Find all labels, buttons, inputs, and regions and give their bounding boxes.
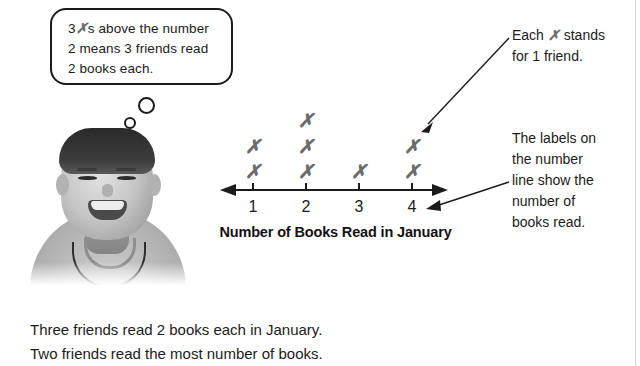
thought-bubble: 3✗s above the number 2 means 3 friends r… xyxy=(50,8,233,85)
x-mark-icon: ✗ xyxy=(298,111,314,130)
photo-eye-right xyxy=(117,176,136,180)
callout-number-line-labels: The labels on the number line show the n… xyxy=(512,128,634,233)
axis-arrowhead-right xyxy=(432,184,448,196)
lesson-page: 3✗s above the number 2 means 3 friends r… xyxy=(0,0,640,366)
callout-each-x: Each ✗ stands for 1 friend. xyxy=(512,25,634,67)
tick-label-3: 3 xyxy=(355,199,364,215)
thought-bubble-body: s above the number 2 means 3 friends rea… xyxy=(68,21,209,76)
x-mark-icon: ✗ xyxy=(404,162,420,181)
photo-teeth xyxy=(91,201,124,210)
x-mark-icon: ✗ xyxy=(548,27,560,43)
callout-arrow-top xyxy=(421,38,509,133)
callout-arrow-bottom xyxy=(426,182,509,211)
photo-hair xyxy=(59,128,155,174)
thought-bubble-text: 3✗s above the number 2 means 3 friends r… xyxy=(68,18,228,79)
x-mark-icon: ✗ xyxy=(351,162,367,181)
x-mark-icon: ✗ xyxy=(404,137,420,156)
summary-sentences: Three friends read 2 books each in Janua… xyxy=(30,318,530,366)
x-mark-icon: ✗ xyxy=(298,137,314,156)
photo-ear-right xyxy=(148,174,161,196)
x-mark-icon: ✗ xyxy=(245,137,261,156)
photo-ear-left xyxy=(56,174,69,196)
thought-bubble-dot-large xyxy=(138,97,155,114)
x-mark-icon: ✗ xyxy=(76,20,88,36)
tick-label-2: 2 xyxy=(302,199,311,215)
photo-eyebrow-right xyxy=(116,168,136,171)
tick-label-4: 4 xyxy=(408,199,417,215)
x-mark-icon: ✗ xyxy=(245,162,261,181)
plot-title: Number of Books Read in January xyxy=(198,224,473,240)
thought-bubble-count: 3 xyxy=(68,21,76,36)
student-photo xyxy=(28,118,188,288)
photo-nose xyxy=(102,184,113,197)
photo-bottom-fade xyxy=(28,262,188,288)
axis-arrowhead-left xyxy=(220,184,236,196)
x-mark-icon: ✗ xyxy=(298,162,314,181)
callout-top-prefix: Each xyxy=(512,27,548,43)
photo-eyebrow-left xyxy=(77,168,97,171)
tick-label-1: 1 xyxy=(249,199,258,215)
page-edge-rule xyxy=(635,0,636,366)
photo-eye-left xyxy=(78,176,97,180)
